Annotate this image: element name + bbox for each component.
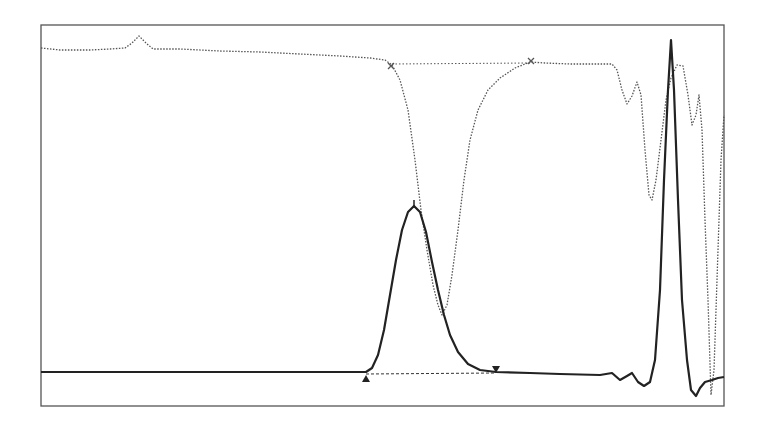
marker-layer xyxy=(362,58,534,382)
series-layer xyxy=(41,36,724,396)
peak-start-marker xyxy=(362,375,370,382)
dotted-baseline xyxy=(392,63,530,64)
solid-trace xyxy=(41,40,724,396)
baseline-dashed xyxy=(366,373,496,374)
chart-canvas xyxy=(0,0,765,428)
plot-frame xyxy=(41,25,724,406)
dip-end-marker xyxy=(528,58,534,64)
dotted-trace xyxy=(41,36,724,395)
